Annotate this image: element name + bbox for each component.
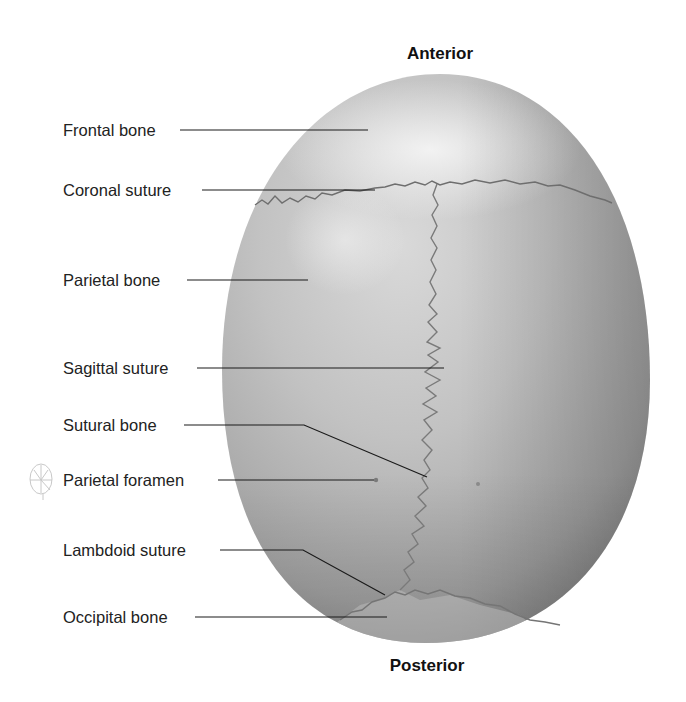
orientation-anterior-label: Anterior (407, 44, 473, 64)
label-sagittal-suture: Sagittal suture (63, 360, 168, 377)
parietal-foramen-left (374, 478, 378, 482)
label-parietal-foramen: Parietal foramen (63, 472, 184, 489)
label-occipital-bone: Occipital bone (63, 609, 168, 626)
label-coronal-suture: Coronal suture (63, 182, 171, 199)
label-lambdoid-suture: Lambdoid suture (63, 542, 186, 559)
orientation-posterior-label: Posterior (390, 656, 465, 676)
skull-orientation-thumbnail-icon (30, 464, 52, 500)
label-frontal-bone: Frontal bone (63, 122, 156, 139)
skull-illustration (0, 0, 686, 702)
parietal-foramen-right (476, 482, 480, 486)
label-parietal-bone: Parietal bone (63, 272, 160, 289)
skull-superior-view-diagram: Anterior Posterior Frontal bone Coronal … (0, 0, 686, 702)
label-sutural-bone: Sutural bone (63, 417, 157, 434)
